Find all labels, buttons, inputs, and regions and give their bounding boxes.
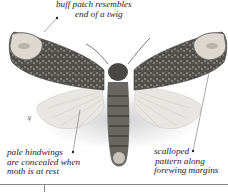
annotation-line: end of a twig: [56, 10, 132, 20]
annotation-hindwings: pale hindwings are concealed when moth i…: [7, 148, 80, 177]
bottom-rule: [0, 184, 228, 185]
annotation-line: forewing margins: [154, 166, 218, 176]
bottom-divider: [44, 184, 45, 192]
female-symbol: ♀: [25, 114, 33, 124]
annotation-scalloped: scalloped pattern along forewing margins: [154, 147, 218, 176]
thorax: [108, 63, 128, 81]
annotation-buff-patch: buff patch resembles end of a twig: [56, 0, 132, 19]
annotation-line: moth is at rest: [7, 167, 80, 177]
abdomen-tip: [113, 152, 125, 164]
